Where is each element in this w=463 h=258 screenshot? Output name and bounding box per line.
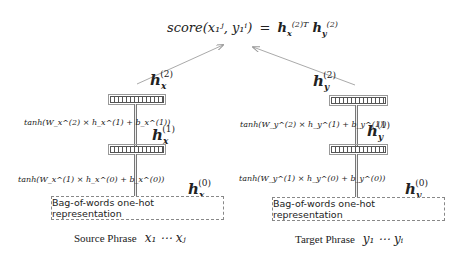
target-hidden-layer-1 (331, 146, 386, 153)
target-h1-label: hy(1) (367, 120, 390, 142)
source-bag-of-words-box: Bag-of-words one-hot representation (51, 196, 224, 220)
target-h2-label: hy(2) (313, 70, 336, 92)
score-formula: score(x₁ʲ, y₁ⁱ) = hx(2)T hy(2) (167, 20, 338, 38)
source-formula-layer2: tanh(W_x^(2) × h_x^(1) + b_x^(1)) (24, 118, 170, 127)
target-formula-layer2: tanh(W_y^(2) × h_y^(1) + b_y^(1)) (240, 120, 386, 129)
target-hidden-layer-2 (331, 97, 386, 104)
score-lhs: score(x₁ʲ, y₁ⁱ) (167, 20, 252, 35)
target-bag-of-words-box: Bag-of-words one-hot representation (272, 197, 445, 221)
source-h1-label: hx(1) (152, 124, 175, 146)
target-phrase-label: Target Phrasey₁ ⋯ yᵢ (295, 232, 403, 246)
target-arrow (253, 47, 355, 85)
score-hy: hy(2) (312, 20, 337, 35)
score-equals: = (259, 20, 270, 35)
target-formula-layer1: tanh(W_y^(1) × h_y^(0) + b_y^(0)) (239, 174, 385, 183)
source-hidden-layer-2 (110, 96, 164, 103)
source-formula-layer1: tanh(W_x^(1) × h_x^(0) + b_x^(0)) (18, 175, 164, 184)
source-h2-label: hx(2) (150, 69, 173, 91)
source-phrase-label: Source Phrasex₁ ⋯ xⱼ (74, 231, 186, 245)
source-hidden-layer-1 (110, 146, 164, 153)
score-hx: hx(2)T (277, 20, 308, 35)
